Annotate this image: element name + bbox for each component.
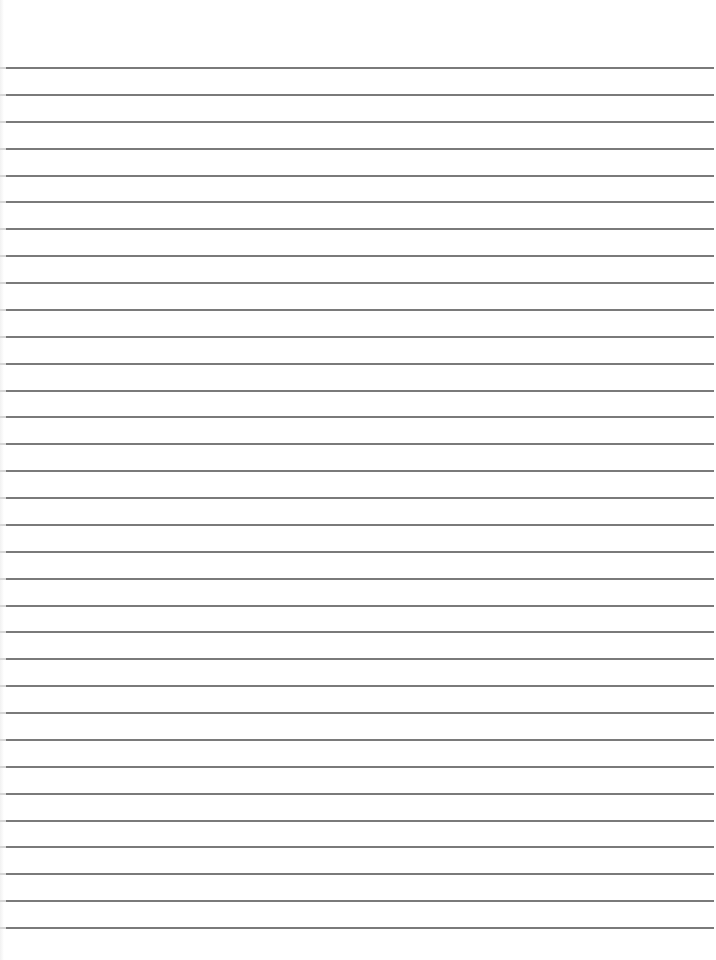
- ruled-line: [6, 766, 714, 768]
- ruled-line: [6, 685, 714, 687]
- margin-tick: [0, 121, 6, 123]
- margin-tick: [0, 148, 6, 150]
- ruled-line: [6, 900, 714, 902]
- ruled-line: [6, 631, 714, 633]
- margin-tick: [0, 228, 6, 230]
- ruled-line: [6, 578, 714, 580]
- margin-tick: [0, 793, 6, 795]
- ruled-line: [6, 121, 714, 123]
- ruled-line: [6, 148, 714, 150]
- ruled-line: [6, 336, 714, 338]
- margin-tick: [0, 309, 6, 311]
- margin-tick: [0, 578, 6, 580]
- margin-tick: [0, 443, 6, 445]
- margin-tick: [0, 900, 6, 902]
- ruled-line: [6, 793, 714, 795]
- margin-tick: [0, 336, 6, 338]
- margin-tick: [0, 524, 6, 526]
- margin-tick: [0, 927, 6, 929]
- ruled-line: [6, 712, 714, 714]
- margin-tick: [0, 766, 6, 768]
- ruled-line: [6, 228, 714, 230]
- margin-tick: [0, 739, 6, 741]
- ruled-line: [6, 255, 714, 257]
- ruled-line: [6, 820, 714, 822]
- margin-tick: [0, 631, 6, 633]
- ruled-line: [6, 363, 714, 365]
- ruled-line: [6, 927, 714, 929]
- margin-tick: [0, 67, 6, 69]
- ruled-line: [6, 658, 714, 660]
- left-edge-shadow: [0, 0, 4, 960]
- ruled-line: [6, 67, 714, 69]
- margin-tick: [0, 255, 6, 257]
- lined-paper-sheet: [0, 0, 716, 960]
- ruled-line: [6, 873, 714, 875]
- ruled-line: [6, 470, 714, 472]
- margin-tick: [0, 390, 6, 392]
- margin-tick: [0, 685, 6, 687]
- margin-tick: [0, 201, 6, 203]
- margin-tick: [0, 175, 6, 177]
- margin-tick: [0, 846, 6, 848]
- margin-tick: [0, 363, 6, 365]
- ruled-line: [6, 201, 714, 203]
- margin-tick: [0, 658, 6, 660]
- ruled-line: [6, 605, 714, 607]
- margin-tick: [0, 605, 6, 607]
- margin-tick: [0, 873, 6, 875]
- ruled-line: [6, 739, 714, 741]
- margin-tick: [0, 94, 6, 96]
- margin-tick: [0, 470, 6, 472]
- margin-tick: [0, 551, 6, 553]
- ruled-line: [6, 94, 714, 96]
- ruled-line: [6, 282, 714, 284]
- margin-tick: [0, 416, 6, 418]
- margin-tick: [0, 712, 6, 714]
- ruled-line: [6, 309, 714, 311]
- ruled-line: [6, 175, 714, 177]
- margin-tick: [0, 820, 6, 822]
- ruled-line: [6, 551, 714, 553]
- ruled-line: [6, 524, 714, 526]
- ruled-line: [6, 497, 714, 499]
- margin-tick: [0, 497, 6, 499]
- margin-tick: [0, 282, 6, 284]
- ruled-line: [6, 390, 714, 392]
- ruled-line: [6, 846, 714, 848]
- ruled-line: [6, 443, 714, 445]
- ruled-line: [6, 416, 714, 418]
